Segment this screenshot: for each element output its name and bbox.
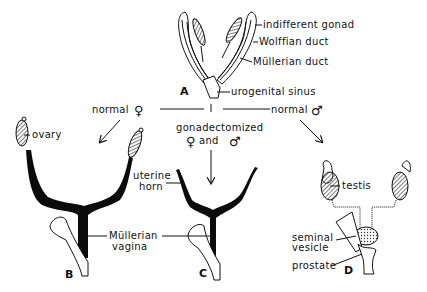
panel-letter-c: C (199, 267, 207, 280)
panel-b-normal-female: ovary B (16, 117, 144, 281)
label-horn: horn (139, 181, 163, 192)
label-uterine: uterine (133, 170, 171, 181)
label-vagina: vagina (112, 241, 147, 252)
female-symbol: ♀ (134, 103, 144, 118)
prostate-urethra (358, 244, 376, 274)
right-indifferent-gonad (224, 16, 245, 44)
label-urogenital-sinus: urogenital sinus (231, 86, 316, 97)
label-and: and (199, 135, 219, 146)
arrow-to-d (300, 120, 322, 142)
label-mullerian-duct: Müllerian duct (253, 56, 329, 67)
label-gonadectomized: gonadectomized (176, 122, 263, 133)
left-ovary (16, 120, 28, 146)
right-vas-deferens (372, 200, 396, 230)
label-prostate: prostate (292, 260, 336, 271)
label-vesicle: vesicle (292, 242, 329, 253)
label-testis: testis (342, 180, 371, 191)
panel-c-gonadectomized: uterine horn Müllerian vagina C (88, 167, 258, 280)
castrated-female-symbol: ♀ (186, 134, 196, 149)
arrow-to-b (100, 120, 120, 142)
label-mullerian: Müllerian (109, 230, 158, 241)
panel-letter-b: B (65, 268, 73, 281)
panel-d-normal-male: testis seminal vesicle prostate D (292, 161, 410, 277)
label-indifferent-gonad: indifferent gonad (263, 19, 354, 30)
reproductive-development-diagram: A indifferent gonad Wolffian duct Müller… (0, 0, 427, 292)
right-testis (392, 172, 408, 200)
label-ovary: ovary (32, 129, 62, 140)
castrated-male-symbol: ♂ (229, 134, 241, 149)
right-ovary (126, 129, 145, 159)
castrated-uterus-vagina (176, 167, 258, 258)
panel-letter-d: D (344, 264, 353, 277)
male-symbol: ♂ (311, 103, 323, 118)
panel-a-indifferent-stage: A indifferent gonad Wolffian duct Müller… (179, 12, 355, 98)
left-indifferent-gonad (190, 17, 207, 46)
panel-letter-a: A (180, 85, 189, 98)
label-normal-male: normal (271, 104, 308, 115)
label-wolffian-duct: Wolffian duct (259, 36, 329, 47)
label-normal-female: normal (92, 104, 129, 115)
